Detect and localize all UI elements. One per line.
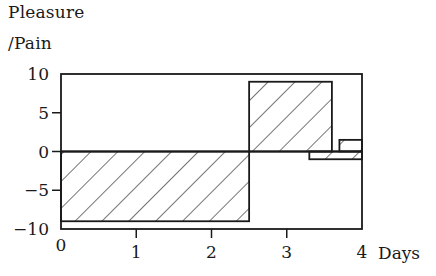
y-tick-label: −10 (13, 219, 49, 239)
x-tick-label: 3 (281, 242, 292, 262)
y-tick-label: 0 (38, 142, 49, 162)
x-tick-label: 2 (206, 242, 217, 262)
x-tick-label: 4 (357, 242, 368, 262)
chart-plot: 1050−5−1001234 Days (0, 0, 436, 276)
y-tick-label: 10 (27, 64, 49, 84)
bar-pain-period-1 (61, 152, 249, 222)
bar-pain-period-2 (309, 152, 362, 160)
x-tick-label: 1 (131, 242, 142, 262)
y-tick-label: 5 (38, 103, 49, 123)
x-tick-label: 0 (56, 235, 67, 255)
bar-pleasure-period-1 (249, 82, 332, 152)
bar-pleasure-period-2 (339, 140, 362, 152)
x-axis-label: Days (378, 243, 420, 263)
y-tick-label: −5 (24, 180, 49, 200)
